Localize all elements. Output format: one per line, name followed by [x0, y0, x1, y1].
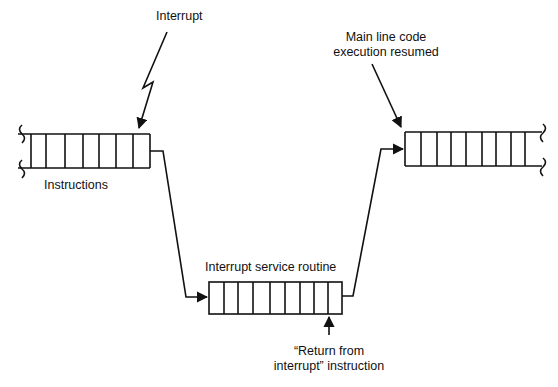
main-line-label-line2: execution resumed: [326, 45, 446, 60]
instructions-label: Instructions: [44, 178, 108, 193]
main-line-resumed-label: Main line code execution resumed: [326, 30, 446, 60]
jump-to-isr-connector: [150, 151, 207, 297]
resume-pointer-arrow: [372, 64, 401, 127]
main-line-label-line1: Main line code: [326, 30, 446, 45]
main-instruction-stream-after: [405, 124, 546, 176]
main-instruction-stream-before: [18, 125, 150, 178]
break-mark-icon: [541, 158, 546, 176]
return-to-main-connector: [342, 149, 403, 296]
isr-label: Interrupt service routine: [205, 260, 336, 275]
return-label-line1: “Return from: [268, 344, 390, 359]
interrupt-lightning-icon: [139, 32, 167, 128]
break-mark-icon: [20, 160, 25, 178]
interrupt-label: Interrupt: [156, 9, 203, 24]
isr-instruction-block: [209, 282, 342, 314]
interrupt-flow-diagram: [0, 0, 558, 387]
return-label-line2: interrupt” instruction: [268, 359, 390, 374]
break-mark-icon: [541, 124, 546, 142]
return-instruction-label: “Return from interrupt” instruction: [268, 344, 390, 374]
